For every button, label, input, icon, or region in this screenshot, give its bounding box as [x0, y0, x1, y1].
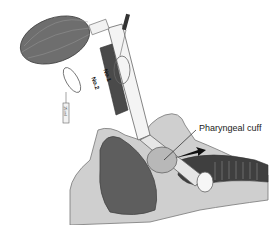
pharyngeal-cuff	[147, 147, 177, 173]
bulb-connector	[89, 19, 109, 35]
pilot-loop-left	[60, 65, 84, 95]
pilot-volume-label: 15 ml	[63, 106, 68, 116]
top-connector	[122, 14, 130, 30]
pharyngeal-cuff-label: Pharyngeal cuff	[199, 123, 261, 133]
diagram-canvas: Pharyngeal cuff No.1 No.2 15 ml	[0, 0, 270, 225]
distal-cuff	[197, 172, 213, 192]
airway-illustration	[0, 0, 270, 225]
inflation-bulb	[14, 7, 97, 73]
